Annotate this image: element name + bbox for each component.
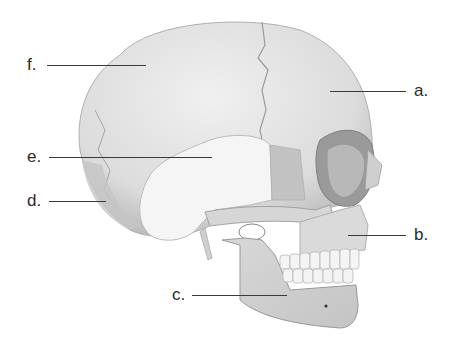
skull-illustration (0, 0, 452, 349)
leader-line-d (49, 201, 106, 202)
label-c-text: c. (172, 286, 185, 303)
label-a-text: a. (414, 82, 428, 99)
leader-line-e (49, 157, 212, 158)
orbit (316, 130, 374, 206)
teeth (280, 249, 359, 283)
sphenoid-bone (270, 145, 305, 200)
label-e-text: e. (27, 148, 41, 165)
styloid-process (200, 228, 212, 260)
nasal-bone (365, 150, 382, 190)
label-b-text: b. (414, 226, 428, 243)
label-f-text: f. (27, 56, 36, 73)
leader-line-a (330, 91, 406, 92)
leader-line-c (192, 295, 287, 296)
label-d-text: d. (27, 192, 41, 209)
leader-line-b (348, 235, 406, 236)
mental-foramen (324, 304, 327, 307)
leader-line-f (47, 65, 146, 66)
external-acoustic-meatus (239, 224, 265, 240)
